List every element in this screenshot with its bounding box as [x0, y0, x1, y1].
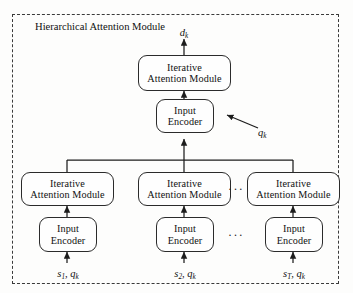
node-label-line2: Encoder	[168, 116, 203, 127]
node-label-line2: Encoder	[277, 235, 312, 246]
node-branch-1-iterative-attention-module[interactable]: Iterative Attention Module	[21, 172, 114, 206]
ellipsis-encoder-row: ···	[228, 228, 244, 243]
figure-canvas: Hierarchical Attention Module dk qk Iter…	[0, 0, 353, 293]
node-branch-3-iterative-attention-module[interactable]: Iterative Attention Module	[247, 172, 340, 206]
node-label-line2: Attention Module	[147, 73, 221, 84]
input-query-subscript: k	[75, 273, 78, 281]
node-label-line1: Input	[174, 105, 196, 116]
node-branch-2-input-encoder[interactable]: Input Encoder	[156, 217, 214, 252]
query-subscript: k	[263, 132, 266, 140]
node-label-line1: Input	[283, 223, 305, 234]
input-query-subscript: k	[192, 273, 195, 281]
input-label-branch-3: sT, qk	[268, 263, 320, 281]
node-top-iterative-attention-module[interactable]: Iterative Attention Module	[138, 55, 231, 91]
figure-title: Hierarchical Attention Module	[35, 20, 145, 33]
figure-title-line2: Attention Module	[89, 21, 165, 32]
output-subscript: k	[185, 32, 188, 40]
node-label-line1: Input	[174, 223, 196, 234]
node-label-line1: Iterative	[167, 62, 202, 73]
node-top-input-encoder[interactable]: Input Encoder	[156, 99, 214, 133]
node-label-line1: Iterative	[50, 178, 85, 189]
input-label-branch-1: s1, qk	[42, 263, 94, 281]
arrow-query-to-top-encoder	[227, 115, 258, 128]
input-query-subscript: k	[302, 273, 305, 281]
query-label: qk	[258, 122, 292, 140]
input-label-branch-2: s2, qk	[159, 263, 211, 281]
node-label-line1: Iterative	[276, 178, 311, 189]
node-label-line2: Attention Module	[256, 189, 330, 200]
node-label-line2: Encoder	[51, 235, 86, 246]
node-label-line2: Attention Module	[30, 189, 104, 200]
node-label-line1: Iterative	[167, 178, 202, 189]
output-label: dk	[164, 22, 204, 40]
ellipsis-iam-row: ···	[228, 182, 244, 197]
node-label-line2: Attention Module	[147, 189, 221, 200]
node-branch-3-input-encoder[interactable]: Input Encoder	[265, 217, 323, 252]
node-label-line2: Encoder	[168, 235, 203, 246]
node-branch-1-input-encoder[interactable]: Input Encoder	[39, 217, 97, 252]
figure-title-line1: Hierarchical	[35, 21, 87, 32]
node-branch-2-iterative-attention-module[interactable]: Iterative Attention Module	[138, 172, 231, 206]
node-label-line1: Input	[57, 223, 79, 234]
